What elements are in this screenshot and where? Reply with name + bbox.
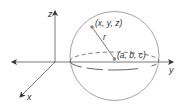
y-axis-label: y (168, 65, 174, 75)
x-axis-label: x (26, 92, 32, 102)
center-point-label: (a, b, c) (117, 50, 146, 60)
surface-point-label: (x, y, z) (95, 18, 122, 28)
sphere-diagram: z y x (x, y, z) (a, b, c) r (0, 0, 182, 107)
z-axis-label: z (47, 9, 53, 19)
center-point-dot (113, 57, 117, 61)
radius-label: r (103, 32, 107, 42)
x-axis (20, 62, 55, 97)
surface-point-dot (90, 25, 94, 29)
